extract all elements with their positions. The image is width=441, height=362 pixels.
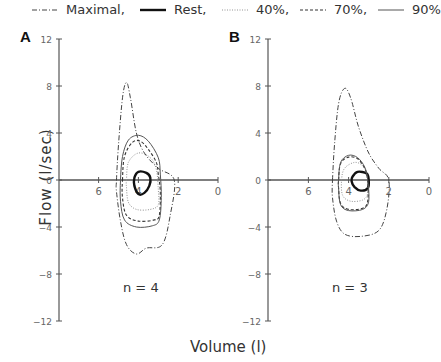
svg-text:0: 0 bbox=[46, 176, 52, 186]
svg-text:2: 2 bbox=[175, 186, 181, 197]
svg-text:0: 0 bbox=[255, 176, 261, 186]
svg-text:6: 6 bbox=[95, 186, 101, 197]
plot-area: 12840−4−8−12642012840−4−8−126420 bbox=[0, 0, 441, 362]
loop-70pct bbox=[122, 140, 160, 221]
svg-text:6: 6 bbox=[305, 186, 311, 197]
panel-b: 12840−4−8−126420 bbox=[242, 35, 432, 327]
svg-text:12: 12 bbox=[250, 35, 261, 45]
svg-text:4: 4 bbox=[46, 129, 52, 139]
svg-text:−12: −12 bbox=[242, 317, 261, 327]
svg-text:4: 4 bbox=[345, 186, 351, 197]
svg-text:8: 8 bbox=[255, 82, 261, 92]
svg-text:0: 0 bbox=[426, 186, 432, 197]
svg-text:−4: −4 bbox=[248, 223, 262, 233]
svg-text:−8: −8 bbox=[248, 270, 262, 280]
loop-90pct bbox=[120, 135, 161, 227]
svg-text:−12: −12 bbox=[33, 317, 52, 327]
svg-text:12: 12 bbox=[41, 35, 52, 45]
svg-text:−4: −4 bbox=[39, 223, 53, 233]
loop-maximal bbox=[116, 83, 175, 255]
svg-text:0: 0 bbox=[215, 186, 221, 197]
svg-text:8: 8 bbox=[46, 82, 52, 92]
loop-40pct bbox=[126, 153, 159, 210]
loop-90pct bbox=[338, 155, 369, 211]
svg-text:4: 4 bbox=[255, 129, 261, 139]
panel-a: 12840−4−8−126420 bbox=[33, 35, 221, 327]
svg-text:−8: −8 bbox=[39, 270, 53, 280]
figure: Maximal,Rest,40%,70%,90% A B Flow (l/sec… bbox=[0, 0, 441, 362]
loop-rest bbox=[134, 172, 151, 195]
